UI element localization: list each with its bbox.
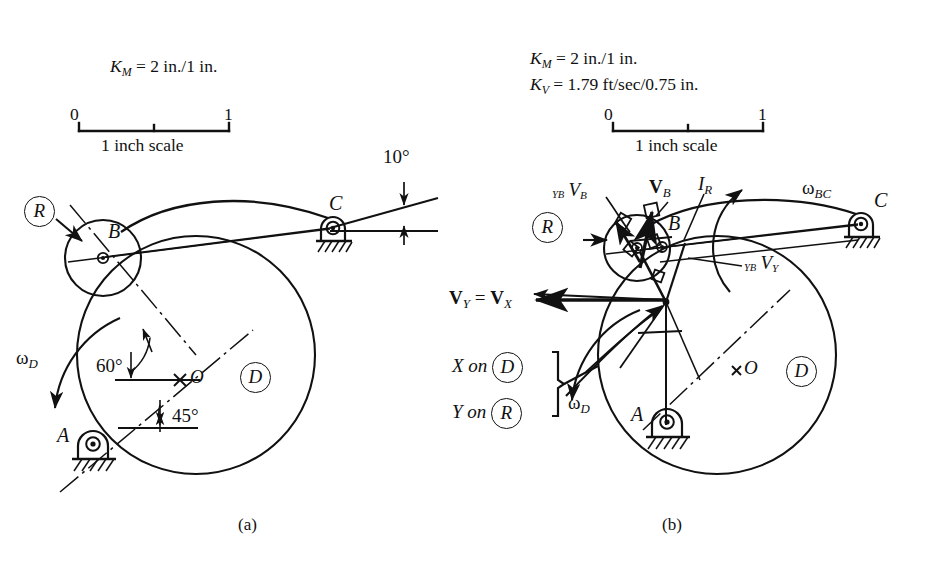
angle-60-arc-a <box>131 338 150 372</box>
label-point-o-b: O <box>744 358 758 377</box>
label-vb-b: VB <box>649 177 671 200</box>
label-cam-d-b: D <box>786 356 817 387</box>
support-a-b <box>646 409 690 449</box>
label-yb-vy-b: YB VY <box>744 253 778 275</box>
figure-canvas: KM = 2 in./1 in. 0 1 1 inch scale R B C … <box>0 0 925 562</box>
point-o-mark-b <box>732 366 741 375</box>
ruler-caption-b: 1 inch scale <box>635 137 718 155</box>
scale-ruler-a <box>79 123 229 131</box>
vector-pole-down3-b <box>666 302 700 380</box>
label-y-on-r-b: Y on R <box>452 398 522 429</box>
caption-a: (a) <box>238 516 257 533</box>
ruler-left-label-a: 0 <box>70 106 79 124</box>
label-ir-b: IR <box>698 174 712 197</box>
ray-upper-a <box>330 198 438 228</box>
label-point-c-a: C <box>329 193 342 213</box>
label-point-a-a: A <box>57 425 69 445</box>
ruler-left-label-b: 0 <box>604 106 613 124</box>
support-c-b <box>844 213 880 248</box>
label-x-on-d-b: X on D <box>452 352 523 383</box>
label-omega-d-a: ωD <box>16 348 38 371</box>
overlay-patch-a <box>18 28 110 118</box>
scale-ruler-b <box>613 123 763 131</box>
link-bc-curve-b <box>650 200 856 225</box>
leader-ir-b <box>684 194 704 240</box>
figure-linework <box>0 0 925 562</box>
scale-kv-b: KV = 1.79 ft/sec/0.75 in. <box>530 76 698 96</box>
label-omega-d-b: ωD <box>568 393 590 416</box>
ruler-right-label-b: 1 <box>758 106 767 124</box>
link-bc-curve-a <box>121 201 328 232</box>
panel-a-linework <box>55 123 438 492</box>
ruler-caption-a: 1 inch scale <box>101 137 184 155</box>
support-c-a <box>316 217 352 252</box>
caption-b: (b) <box>662 516 682 533</box>
label-point-c-b: C <box>874 190 887 210</box>
label-point-a-b: A <box>631 404 643 424</box>
scale-km-a: KM = 2 in./1 in. <box>110 58 217 78</box>
label-point-b-a: B <box>108 221 120 241</box>
label-angle-10-a: 10° <box>383 147 410 166</box>
radial-ob-a <box>70 205 196 355</box>
ruler-right-label-a: 1 <box>224 106 233 124</box>
label-angle-60-a: 60° <box>96 356 123 375</box>
label-angle-45-a: 45° <box>172 406 199 425</box>
label-roller-r-a: R <box>24 196 55 227</box>
label-omega-bc-b: ωBC <box>802 178 831 201</box>
label-point-o-a: O <box>190 367 204 386</box>
label-cam-d-a: D <box>240 362 271 393</box>
label-vy-eq-vx-b: VY = VX <box>449 288 512 311</box>
scale-km-b: KM = 2 in./1 in. <box>530 50 637 70</box>
tick-bar-b <box>630 237 672 241</box>
label-roller-r-b: R <box>532 212 563 243</box>
label-yb-vb-b: YB VB <box>552 180 587 202</box>
label-point-b-b: B <box>668 213 680 233</box>
